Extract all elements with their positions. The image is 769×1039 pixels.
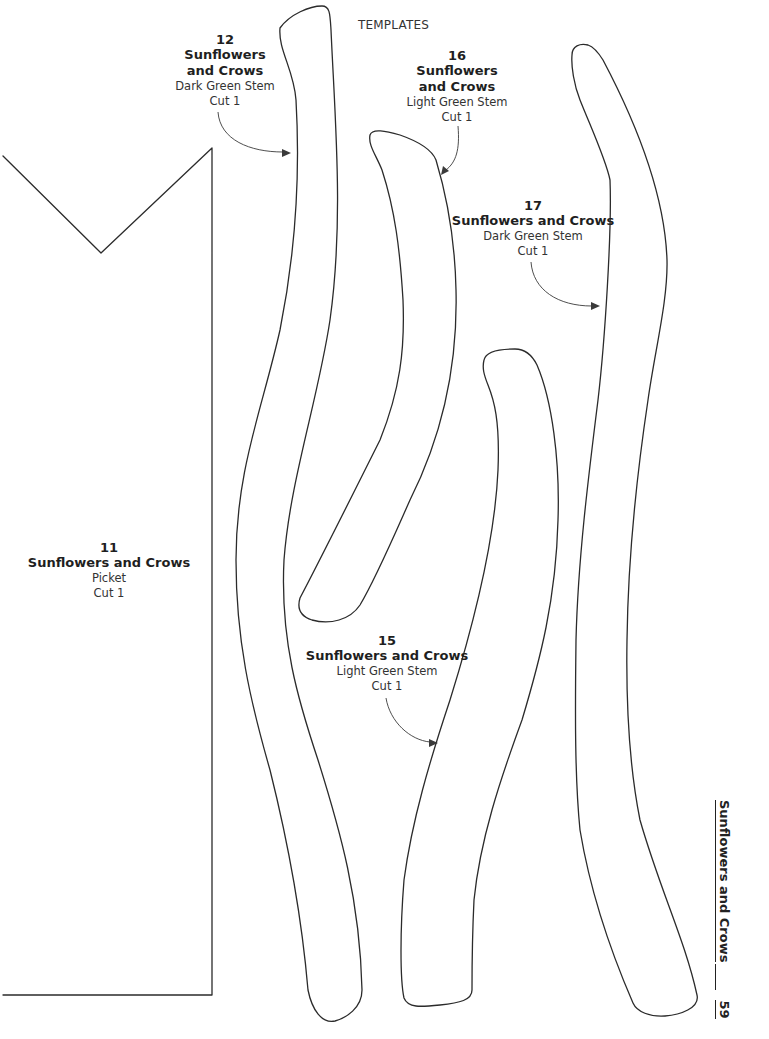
- template-number: 17: [450, 198, 616, 213]
- template-title: Sunflowers and Crows: [160, 47, 290, 79]
- pointer-arrow-12: [218, 112, 291, 157]
- template-16-stem-outline: [299, 131, 456, 622]
- template-cut: Cut 1: [450, 244, 616, 259]
- footer-rule: [715, 964, 732, 990]
- template-cut: Cut 1: [304, 679, 470, 694]
- template-17-stem-outline: [572, 44, 697, 1016]
- template-label-12: 12 Sunflowers and Crows Dark Green Stem …: [160, 32, 290, 109]
- template-piece: Dark Green Stem: [160, 79, 290, 94]
- template-title: Sunflowers and Crows: [304, 648, 470, 664]
- template-label-16: 16 Sunflowers and Crows Light Green Stem…: [400, 48, 514, 125]
- template-label-11: 11 Sunflowers and Crows Picket Cut 1: [26, 540, 192, 601]
- template-piece: Light Green Stem: [400, 95, 514, 110]
- page-footer: Sunflowers and Crows 59: [702, 800, 732, 1020]
- template-piece: Light Green Stem: [304, 664, 470, 679]
- pointer-arrow-17: [531, 262, 600, 310]
- footer-book-title: Sunflowers and Crows: [715, 800, 732, 962]
- template-title: Sunflowers and Crows: [450, 213, 616, 229]
- template-piece: Dark Green Stem: [450, 229, 616, 244]
- pointer-arrow-15: [386, 698, 438, 747]
- template-number: 15: [304, 633, 470, 648]
- template-cut: Cut 1: [160, 94, 290, 109]
- template-cut: Cut 1: [26, 586, 192, 601]
- pointer-arrow-16: [441, 126, 459, 175]
- template-title: Sunflowers and Crows: [26, 555, 192, 571]
- template-outlines: [0, 0, 769, 1039]
- template-label-17: 17 Sunflowers and Crows Dark Green Stem …: [450, 198, 616, 259]
- template-number: 11: [26, 540, 192, 555]
- template-number: 16: [400, 48, 514, 63]
- template-number: 12: [160, 32, 290, 47]
- template-title: Sunflowers and Crows: [400, 63, 514, 95]
- page-number: 59: [715, 1000, 732, 1018]
- page-header: TEMPLATES: [358, 18, 429, 32]
- template-cut: Cut 1: [400, 110, 514, 125]
- template-label-15: 15 Sunflowers and Crows Light Green Stem…: [304, 633, 470, 694]
- template-piece: Picket: [26, 571, 192, 586]
